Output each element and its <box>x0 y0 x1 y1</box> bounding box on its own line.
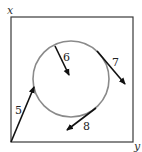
arrow-7: 7 <box>97 51 125 84</box>
arrow-7-label: 7 <box>112 56 119 69</box>
y-axis-label: y <box>133 140 141 152</box>
arrow-8: 8 <box>67 108 96 133</box>
arrow-6-label: 6 <box>63 51 70 64</box>
arrow-5: 5 <box>11 87 34 142</box>
bounding-box <box>11 17 133 142</box>
motion-diagram: x y 5 6 7 8 <box>0 0 142 152</box>
arrow-8-label: 8 <box>83 120 90 133</box>
arrow-5-label: 5 <box>15 104 22 117</box>
x-axis-label: x <box>7 4 14 17</box>
arrow-6: 6 <box>55 46 70 75</box>
